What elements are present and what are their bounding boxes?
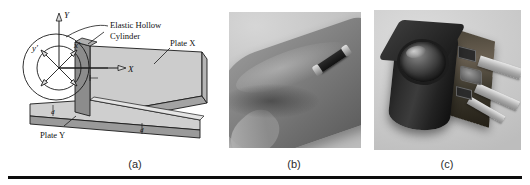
label-axis-Y: Y: [64, 10, 70, 20]
panel-c-photo: [374, 10, 521, 150]
label-axis-y-prime: y': [31, 43, 39, 53]
label-dim-plate-x: d: [140, 126, 144, 134]
lens-module-photo: [374, 10, 521, 150]
label-elastic-hollow-cylinder-line1: Elastic Hollow: [110, 20, 162, 30]
label-axis-X: X: [127, 64, 134, 74]
bottom-rule: [8, 176, 522, 179]
label-dim-plate-y: d: [51, 108, 55, 116]
caption-c: (c): [417, 158, 477, 170]
finger-shape: [229, 12, 361, 148]
label-elastic-hollow-cylinder-line2: Cylinder: [110, 31, 140, 41]
panel-a-diagram: Elastic Hollow Cylinder Plate X Plate Y …: [4, 4, 216, 156]
panel-b-photo: [229, 12, 361, 148]
label-plate-y: Plate Y: [40, 130, 65, 140]
figure-row: Elastic Hollow Cylinder Plate X Plate Y …: [0, 0, 530, 160]
label-axis-x-prime: x': [73, 40, 81, 50]
caption-b: (b): [264, 158, 324, 170]
fingertip-sensor-photo: [229, 12, 361, 148]
elastic-hollow-cylinder-diagram: Elastic Hollow Cylinder Plate X Plate Y …: [4, 4, 216, 156]
label-plate-x: Plate X: [170, 38, 196, 48]
caption-a: (a): [105, 158, 165, 170]
